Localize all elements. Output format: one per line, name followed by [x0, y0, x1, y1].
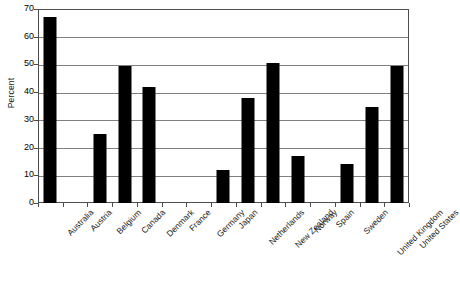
x-axis-tick-mark — [310, 203, 311, 207]
x-axis-tick-mark — [285, 203, 286, 207]
x-axis-tick-mark — [409, 203, 410, 207]
bar-group — [112, 9, 137, 203]
x-axis-tick-mark — [261, 203, 262, 207]
bar-group — [38, 9, 63, 203]
x-axis-tick-label: Spain — [335, 208, 357, 230]
bar-group — [285, 9, 310, 203]
bar-group — [261, 9, 286, 203]
bar-group — [211, 9, 236, 203]
x-axis-tick-mark — [335, 203, 336, 207]
bar — [291, 156, 304, 203]
x-axis-tick-label: Belgium — [115, 208, 143, 236]
x-axis-tick-labels: AustraliaAustriaBelgiumCanadaDenmarkFran… — [38, 208, 409, 283]
x-axis-tick-mark — [236, 203, 237, 207]
bar-group — [236, 9, 261, 203]
x-axis-tick-mark — [137, 203, 138, 207]
y-axis-tick-label: 70 — [0, 4, 34, 13]
x-axis-tick-mark — [384, 203, 385, 207]
x-axis-tick-mark — [112, 203, 113, 207]
bar — [118, 66, 131, 203]
x-axis-tick-mark — [186, 203, 187, 207]
y-axis-tick-label: 40 — [0, 87, 34, 96]
x-axis-tick-mark — [211, 203, 212, 207]
bar-group — [186, 9, 211, 203]
bar-group — [63, 9, 88, 203]
bar-group — [335, 9, 360, 203]
bar-group — [87, 9, 112, 203]
y-axis-tick-label: 30 — [0, 115, 34, 124]
bar-group — [360, 9, 385, 203]
y-axis-tick-label: 50 — [0, 59, 34, 68]
y-axis-tick-label: 0 — [0, 198, 34, 207]
x-axis-tick-mark — [38, 203, 39, 207]
bar — [44, 17, 57, 203]
bar — [365, 107, 378, 203]
x-axis-tick-mark — [63, 203, 64, 207]
bar-group — [310, 9, 335, 203]
bar — [266, 63, 279, 203]
y-axis-tick-label: 60 — [0, 32, 34, 41]
bar-group — [137, 9, 162, 203]
y-axis-tick-label: 20 — [0, 143, 34, 152]
bar — [390, 66, 403, 203]
x-axis-tick-label: Sweden — [362, 208, 390, 236]
bar — [341, 164, 354, 203]
y-axis-tick-label: 10 — [0, 170, 34, 179]
bars-layer — [38, 9, 409, 203]
bar — [217, 170, 230, 203]
bar — [93, 134, 106, 203]
bar-group — [162, 9, 187, 203]
bar-group — [384, 9, 409, 203]
x-axis-tick-mark — [360, 203, 361, 207]
x-axis-tick-mark — [162, 203, 163, 207]
x-axis-tick-label: Canada — [139, 208, 166, 235]
bar — [143, 87, 156, 203]
bar — [242, 98, 255, 203]
